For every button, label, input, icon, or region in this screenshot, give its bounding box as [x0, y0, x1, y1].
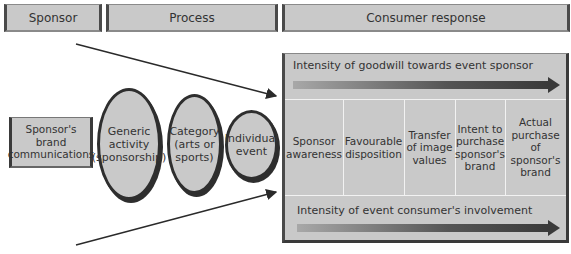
stage-actual-purchase: Actual purchase of sponsor's brand — [505, 100, 566, 195]
stage-text: brand — [455, 160, 505, 173]
stage-text: purchase — [455, 135, 505, 148]
sponsor-box-line2: brand — [8, 136, 95, 149]
response-stages-row: Sponsor awareness Favourable disposition… — [285, 99, 566, 196]
stage-text: Intent to — [455, 123, 505, 136]
stage-text: Sponsor — [286, 135, 342, 148]
sponsor-box-line3: communications — [8, 148, 95, 161]
stage-text: disposition — [345, 148, 403, 161]
ellipse-category-line3: sports) — [169, 151, 219, 164]
sponsor-brand-communications-box: Sponsor's brand communications — [9, 117, 93, 168]
stage-text: values — [406, 154, 452, 167]
ellipse-generic-activity: Generic activity (sponsorship) — [97, 88, 161, 200]
stage-text: Actual — [505, 116, 566, 129]
stage-intent-to-purchase: Intent to purchase sponsor's brand — [455, 100, 505, 195]
stage-sponsor-awareness: Sponsor awareness — [285, 100, 343, 195]
stage-favourable-disposition: Favourable disposition — [343, 100, 404, 195]
ellipse-generic-line3: (sponsorship) — [92, 151, 167, 164]
stage-transfer-image-values: Transfer of image values — [404, 100, 455, 195]
funnel-bottom-arrow-icon — [76, 192, 276, 245]
stage-text: purchase — [505, 129, 566, 142]
funnel-top-arrow-icon — [76, 44, 276, 96]
stage-text: sponsor's — [455, 148, 505, 161]
stage-text: of sponsor's — [505, 141, 566, 166]
ellipse-individual-event: Individual event — [225, 110, 278, 180]
ellipse-category-line1: Category — [169, 125, 219, 138]
stage-text: Transfer — [406, 129, 452, 142]
consumer-response-panel: Intensity of goodwill towards event spon… — [282, 53, 569, 243]
ellipse-category-line2: (arts or — [169, 138, 219, 151]
sponsor-box-line1: Sponsor's — [8, 123, 95, 136]
ellipse-category: Category (arts or sports) — [167, 94, 222, 194]
ellipse-generic-line1: Generic — [92, 125, 167, 138]
stage-text: Favourable — [345, 135, 403, 148]
stage-text: awareness — [286, 148, 342, 161]
ellipse-generic-line2: activity — [92, 138, 167, 151]
stage-text: of image — [406, 141, 452, 154]
involvement-arrow-icon — [285, 216, 567, 246]
ellipse-individual-line2: event — [225, 145, 279, 158]
stage-text: brand — [505, 166, 566, 179]
ellipse-individual-line1: Individual — [225, 132, 279, 145]
goodwill-bar-label: Intensity of goodwill towards event spon… — [293, 59, 533, 72]
